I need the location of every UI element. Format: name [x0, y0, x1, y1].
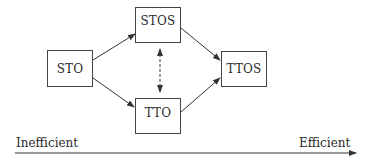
node-sto: STO [47, 50, 93, 87]
node-stos-label: STOS [140, 14, 175, 28]
node-ttos-label: TTOS [226, 62, 261, 76]
node-stos: STOS [135, 7, 181, 43]
node-tto: TTO [135, 98, 181, 134]
node-ttos: TTOS [221, 51, 267, 87]
node-sto-label: STO [57, 62, 84, 76]
edge-sto-tto [93, 78, 134, 107]
axis-left-label: Inefficient [16, 136, 78, 150]
edge-sto-stos [93, 34, 135, 60]
edge-tto-ttos [181, 78, 220, 112]
edge-stos-ttos [181, 28, 220, 60]
node-tto-label: TTO [145, 106, 172, 120]
axis-right-label: Efficient [299, 136, 350, 150]
